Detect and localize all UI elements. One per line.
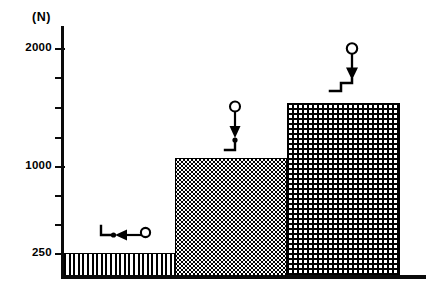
- y-tick-1000: [55, 166, 65, 168]
- marker-1-annotation: [98, 222, 154, 244]
- y-tick-label-250: 250: [0, 246, 52, 258]
- y-tick-label-2000: 2000: [0, 41, 52, 53]
- y-tick-minor-5: [55, 224, 62, 226]
- bar-2-outline: [175, 158, 287, 275]
- y-tick-minor-2: [55, 107, 62, 109]
- marker-3-annotation: [326, 42, 366, 98]
- y-axis-unit-label: (N): [32, 10, 51, 24]
- y-tick-minor-4: [55, 195, 62, 197]
- bar-1-outline: [64, 253, 175, 276]
- y-tick-label-1000: 1000: [0, 159, 52, 171]
- marker-2-annotation: [219, 100, 251, 156]
- chart-canvas: (N) 2000 1000 250: [0, 0, 444, 296]
- y-tick-minor-1: [55, 77, 62, 79]
- y-tick-2000: [55, 48, 65, 50]
- y-axis-line: [61, 26, 64, 278]
- bar-3-outline: [287, 103, 400, 275]
- y-tick-minor-3: [55, 137, 62, 139]
